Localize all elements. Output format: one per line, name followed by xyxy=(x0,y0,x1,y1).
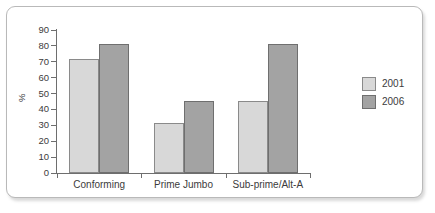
legend-label-2001: 2001 xyxy=(382,79,404,89)
y-axis-tick-label: 40 xyxy=(27,104,49,114)
y-axis-tick-label: 90 xyxy=(27,25,49,35)
legend-swatch-icon-2001 xyxy=(362,77,376,91)
y-axis-tick-label: 70 xyxy=(27,57,49,67)
y-axis-tick-label: 60 xyxy=(27,73,49,83)
y-axis-tick-label: 80 xyxy=(27,41,49,51)
y-axis-tick xyxy=(51,77,56,78)
x-axis-group-tick xyxy=(57,173,58,178)
x-axis-label-conforming: Conforming xyxy=(57,180,141,190)
y-axis-tick xyxy=(51,141,56,142)
legend-label-2006: 2006 xyxy=(382,97,404,107)
bar-2006-sub-prime-alt-a xyxy=(268,44,298,173)
x-axis-group-tick xyxy=(226,173,227,178)
x-axis-label-prime-jumbo: Prime Jumbo xyxy=(141,180,225,190)
y-axis-tick xyxy=(51,30,56,31)
y-axis-title: % xyxy=(17,94,27,102)
legend-item-2006[interactable]: 2006 xyxy=(362,93,404,111)
y-axis-tick xyxy=(51,157,56,158)
y-axis-tick-labels: 9080706050403020100 xyxy=(22,0,49,213)
y-axis-tick xyxy=(51,61,56,62)
bar-2001-prime-jumbo xyxy=(154,123,184,173)
bar-2006-conforming xyxy=(99,44,129,173)
x-axis-label-sub-prime-alt-a: Sub-prime/Alt-A xyxy=(226,180,310,190)
x-axis-group-tick xyxy=(141,173,142,178)
x-axis-group-tick xyxy=(310,173,311,178)
chart-legend: 20012006 xyxy=(362,75,404,111)
plot-area xyxy=(57,30,310,173)
y-axis-tick-label: 10 xyxy=(27,152,49,162)
y-axis-tick xyxy=(51,109,56,110)
y-axis-tick xyxy=(51,173,56,174)
y-axis-tick xyxy=(51,93,56,94)
x-axis-line xyxy=(56,173,311,174)
bar-2006-prime-jumbo xyxy=(184,101,214,173)
bar-2001-conforming xyxy=(69,59,99,173)
bar-2001-sub-prime-alt-a xyxy=(238,101,268,173)
y-axis-tick-label: 30 xyxy=(27,120,49,130)
y-axis-tick xyxy=(51,125,56,126)
y-axis-tick xyxy=(51,45,56,46)
y-axis-tick-label: 0 xyxy=(27,168,49,178)
y-axis-tick-label: 20 xyxy=(27,136,49,146)
legend-item-2001[interactable]: 2001 xyxy=(362,75,404,93)
legend-swatch-icon-2006 xyxy=(362,95,376,109)
y-axis-tick-label: 50 xyxy=(27,89,49,99)
